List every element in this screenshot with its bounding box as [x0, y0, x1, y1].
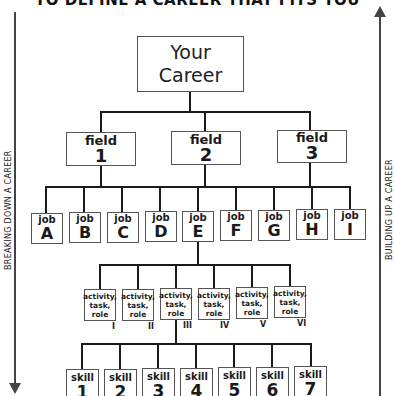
field-box: field 1 [66, 132, 136, 166]
connector [83, 186, 85, 212]
connector [310, 343, 312, 366]
connector [235, 186, 237, 210]
connector [204, 165, 206, 187]
job-box: job C [107, 212, 139, 243]
skill-box: skill 1 [66, 369, 99, 396]
skill-box: skill 6 [256, 367, 289, 396]
connector [175, 264, 177, 288]
connector [100, 111, 102, 132]
job-box: job D [145, 211, 177, 242]
connector [349, 186, 351, 209]
connector [45, 186, 47, 213]
connector [195, 343, 197, 368]
arrow-down-head-icon [9, 383, 21, 394]
activity-box: activity, task, role [84, 289, 116, 321]
activity-box: activity, task, role [274, 286, 306, 318]
skill-box: skill 3 [142, 368, 175, 396]
field-box: field 3 [277, 130, 347, 163]
activity-numeral: VI [297, 319, 306, 328]
activity-numeral: V [260, 320, 266, 329]
activity-numeral: IV [220, 321, 229, 330]
connector [273, 186, 275, 210]
connector [271, 343, 273, 367]
job-box: job B [69, 212, 101, 243]
connector [99, 264, 101, 289]
connector [119, 343, 121, 369]
connector [204, 111, 206, 132]
job-box: job H [296, 209, 328, 240]
activity-numeral: I [112, 322, 115, 331]
connector [309, 111, 311, 131]
diagram-title: TO DEFINE A CAREER THAT FITS YOU [0, 0, 395, 9]
connector [99, 264, 291, 266]
connector [81, 343, 83, 369]
career-line2: Career [159, 64, 223, 87]
connector [289, 264, 291, 286]
activity-numeral: III [183, 321, 192, 330]
job-box: job E [182, 211, 214, 242]
arrow-up-head-icon [374, 6, 386, 17]
building-up-arrow [379, 14, 381, 396]
activity-box: activity, task, role [160, 288, 192, 320]
connector [233, 343, 235, 367]
connector [159, 186, 161, 211]
field-box: field 2 [171, 131, 241, 165]
career-box: Your Career [137, 36, 244, 92]
connector [100, 166, 102, 188]
activity-box: activity, task, role [198, 288, 230, 320]
skill-box: skill 4 [180, 368, 213, 396]
connector [311, 186, 313, 209]
connector [251, 264, 253, 287]
skill-box: skill 2 [104, 369, 137, 396]
activity-box: activity, task, role [236, 287, 268, 319]
career-line1: Your [170, 41, 211, 64]
connector [157, 343, 159, 368]
left-side-label: BREAKING DOWN A CAREER [4, 150, 13, 270]
connector [197, 242, 199, 266]
right-side-label: BUILDING UP A CAREER [385, 159, 394, 260]
breaking-down-arrow [14, 12, 16, 387]
connector [189, 92, 191, 113]
connector [175, 320, 177, 345]
connector [213, 264, 215, 288]
job-box: job A [31, 213, 63, 244]
activity-box: activity, task, role [122, 289, 154, 321]
connector [309, 163, 311, 186]
connector [121, 186, 123, 212]
activity-numeral: II [148, 322, 154, 331]
skill-box: skill 7 [294, 366, 327, 396]
skill-box: skill 5 [218, 367, 251, 396]
connector [137, 264, 139, 289]
job-box: job F [220, 210, 252, 241]
job-box: job I [334, 209, 366, 240]
connector [197, 186, 199, 211]
career-hierarchy-diagram: TO DEFINE A CAREER THAT FITS YOU BREAKIN… [0, 0, 395, 396]
job-box: job G [258, 210, 290, 241]
